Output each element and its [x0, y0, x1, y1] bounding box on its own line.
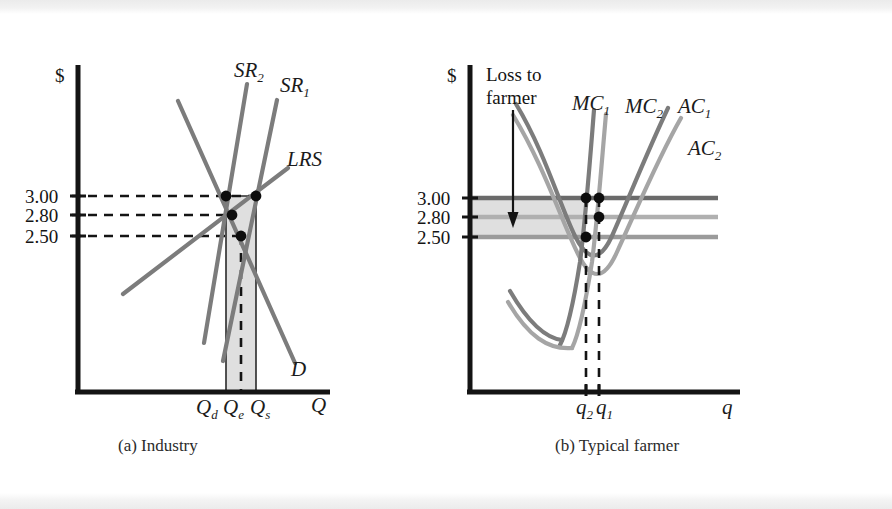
panel-a-tick-label-250: 2.50: [25, 226, 58, 247]
panel-a-xtick-qe: Qe: [223, 395, 244, 422]
figure-svg: $ 3.00 2.80 2.50 Qd Qe Qs Q SR2 SR1: [0, 0, 892, 509]
panel-b-point-mc2-p300: [594, 193, 605, 204]
panel-b-label-mc2: MC2: [624, 94, 664, 121]
panel-b-xtick-q2: q2: [576, 395, 594, 422]
panel-b-x-axis-label: q: [722, 395, 733, 419]
panel-a-xtick-qs: Qs: [250, 395, 270, 422]
panel-b-point-mc1-p250: [581, 232, 592, 243]
panel-a-point-d-sr1: [236, 231, 247, 242]
panel-a-x-axis-label: Q: [311, 393, 326, 417]
panel-b-xtick-q1: q1: [596, 395, 613, 422]
panel-b-tick-label-280: 2.80: [417, 207, 450, 228]
panel-a-point-lrs-sr2: [227, 210, 238, 221]
panel-a-point-sr1-lrs: [251, 191, 262, 202]
panel-b-point-mc1-p300: [581, 193, 592, 204]
panel-a-point-d-sr2: [221, 191, 232, 202]
panel-b-tick-label-300: 3.00: [417, 188, 450, 209]
panel-a-tick-label-280: 2.80: [25, 205, 58, 226]
panel-b-y-axis-label: $: [447, 65, 457, 86]
panel-a-tick-label-300: 3.00: [25, 186, 58, 207]
figure-root: $ 3.00 2.80 2.50 Qd Qe Qs Q SR2 SR1: [0, 0, 892, 509]
panel-a-label-d: D: [290, 357, 306, 381]
panel-a-y-axis-label: $: [55, 65, 65, 86]
panel-a-group: $ 3.00 2.80 2.50 Qd Qe Qs Q SR2 SR1: [25, 58, 330, 422]
panel-a-label-sr2: SR2: [234, 58, 264, 85]
panel-b-label-mc1: MC1: [571, 91, 610, 118]
panel-b-annotation-line1: Loss to: [486, 64, 541, 85]
panel-b-label-ac1: AC1: [676, 94, 711, 121]
panel-a-caption: (a) Industry: [118, 436, 198, 456]
panel-b-annotation-line2: farmer: [486, 87, 537, 108]
panel-b-caption: (b) Typical farmer: [555, 436, 679, 456]
panel-b-point-ac-p280: [594, 212, 605, 223]
panel-a-label-lrs: LRS: [286, 147, 323, 171]
panel-b-tick-label-250: 2.50: [417, 227, 450, 248]
panel-a-curve-lrs: [123, 168, 288, 294]
panel-b-label-ac2: AC2: [686, 136, 722, 163]
panel-a-xtick-qd: Qd: [196, 395, 218, 422]
panel-b-group: $ 3.00 2.80 2.50 Loss to farmer q2 q1 q …: [417, 64, 740, 422]
panel-a-label-sr1: SR1: [280, 73, 310, 100]
